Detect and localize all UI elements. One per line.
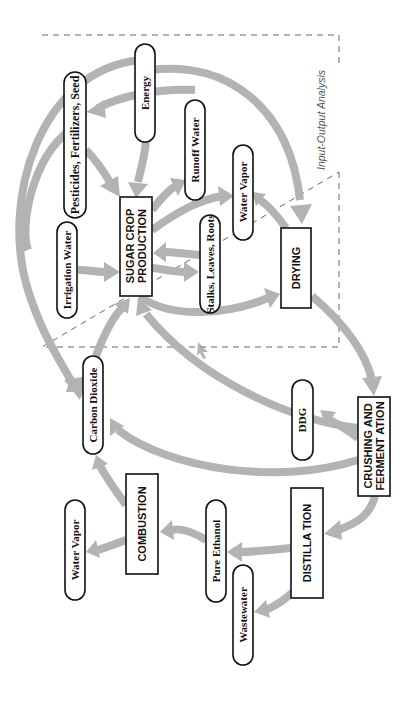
node-runoff-water[interactable]: Runoff Water xyxy=(185,100,205,200)
arrowhead-drying-to-crushing xyxy=(362,376,382,396)
energy-label: Energy xyxy=(139,75,151,110)
arrowhead-sugar-crop-to-stalks xyxy=(184,262,199,282)
node-irrigation-water[interactable]: Irrigation Water xyxy=(57,222,77,318)
arrow-combustion-to-water-vapor xyxy=(98,540,126,550)
arrowhead-energy-to-sugar-crop xyxy=(128,182,148,198)
arrow-energy-to-sugar-crop xyxy=(138,142,146,182)
node-energy[interactable]: Energy xyxy=(135,44,155,142)
sugar-crop-label-line1: SUGAR CROP xyxy=(124,209,136,284)
node-water-vapor-bottom[interactable]: Water Vapor xyxy=(65,500,85,600)
arrowhead-stalks-to-sugar-crop xyxy=(153,242,166,262)
drying-label: DRYING xyxy=(290,247,302,289)
distillation-label: DISTILLA TION xyxy=(301,504,313,582)
node-sugar-crop-production[interactable]: SUGAR CROP PRODUCTION xyxy=(120,197,152,296)
pure-ethanol-label: Pure Ethanol xyxy=(210,520,222,582)
wastewater-label: Wastewater xyxy=(237,587,249,643)
crushing-label-line2: FERMENT ATION xyxy=(374,401,386,490)
node-combustion[interactable]: COMBUSTION xyxy=(126,474,158,574)
arrowhead-crushing-to-distillation xyxy=(324,520,342,540)
node-carbon-dioxide[interactable]: Carbon Dioxide xyxy=(83,356,103,454)
node-pure-ethanol[interactable]: Pure Ethanol xyxy=(206,500,226,602)
node-distillation[interactable]: DISTILLA TION xyxy=(291,488,323,598)
arrowhead-distillation-to-wastewater xyxy=(254,600,270,618)
arrow-carbon-dioxide-to-sugar-crop xyxy=(96,308,122,356)
pesticides-label: Pesticides, Fertilizers, Seed xyxy=(68,75,82,214)
arrowhead-energy-to-pesticides xyxy=(86,100,106,118)
arrowhead-pure-ethanol-to-combustion xyxy=(160,520,174,540)
arrowhead-sugar-crop-to-water-vapor xyxy=(218,186,234,206)
arrow-sugar-crop-to-stalks xyxy=(152,268,186,272)
arrow-crushing-to-carbon-dioxide xyxy=(118,430,358,472)
stalks-label: Stalks, Leaves, Roots xyxy=(204,214,216,314)
sugar-crop-label-line2: PRODUCTION xyxy=(136,209,148,283)
crushing-label-line1: CRUSHING AND xyxy=(362,403,374,488)
node-wastewater[interactable]: Wastewater xyxy=(233,565,253,665)
ddg-label: DDG xyxy=(296,407,308,432)
node-crushing-fermentation[interactable]: CRUSHING AND FERMENT ATION xyxy=(358,397,390,496)
nodes: Energy Pesticides, Fertilizers, Seed Irr… xyxy=(57,44,390,665)
combustion-label: COMBUSTION xyxy=(136,486,148,561)
arrow-distillation-to-pure-ethanol xyxy=(240,548,291,552)
arrowhead-combustion-to-water-vapor xyxy=(86,540,100,558)
runoff-label: Runoff Water xyxy=(189,117,201,182)
arrow-drying-to-crushing xyxy=(312,296,372,380)
arrowhead-energy-to-drying xyxy=(290,204,312,224)
node-pesticides[interactable]: Pesticides, Fertilizers, Seed xyxy=(64,72,86,218)
arrow-stalks-to-sugar-crop xyxy=(164,252,200,255)
arrowhead-irrigation-to-sugar-crop xyxy=(104,262,120,282)
node-drying[interactable]: DRYING xyxy=(281,228,311,308)
carbon-dioxide-label: Carbon Dioxide xyxy=(87,367,99,442)
arrow-combustion-to-carbon-dioxide xyxy=(100,466,126,505)
arrow-irrigation-to-sugar-crop xyxy=(78,270,106,272)
region-label: Input-Output Analysis xyxy=(315,69,327,170)
arrowhead-distillation-to-pure-ethanol xyxy=(227,542,242,562)
node-water-vapor-top[interactable]: Water Vapor xyxy=(233,145,253,240)
arrow-drying-to-water-vapor xyxy=(260,200,286,228)
node-ddg[interactable]: DDG xyxy=(292,380,313,460)
arrow-pure-ethanol-to-combustion xyxy=(172,529,206,540)
node-stalks-leaves-roots[interactable]: Stalks, Leaves, Roots xyxy=(200,214,220,314)
irrigation-label: Irrigation Water xyxy=(61,231,73,309)
flow-diagram: Input-Output Analysis xyxy=(0,0,403,724)
arrow-pesticides-to-sugar-crop xyxy=(86,150,110,182)
water-vapor-top-label: Water Vapor xyxy=(237,162,249,223)
arrow-sugar-crop-to-runoff xyxy=(152,186,176,210)
water-vapor-bottom-label: Water Vapor xyxy=(69,520,81,581)
arrow-crushing-to-distillation xyxy=(338,496,375,530)
mouse-cursor-icon xyxy=(197,342,208,359)
